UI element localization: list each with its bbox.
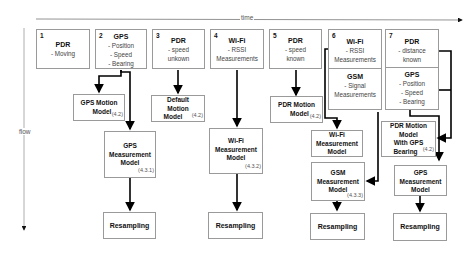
model-label: GPS (105, 142, 155, 151)
step-detail: - distance (386, 46, 438, 55)
step-detail: - Position (96, 41, 146, 50)
step-detail: Measurements (329, 55, 381, 64)
section-ref: (4.2) (310, 112, 321, 121)
wifi-measurement-model-box-6: Wi-Fi Measurement Model (311, 130, 363, 157)
pdr-motion-gps-bearing-model-box: PDR Motion Model With GPS Bearing (4.2) (381, 121, 436, 157)
model-label: GSM (312, 169, 364, 178)
step-detail: - RSSI (329, 46, 381, 55)
flow-axis-label: flow (18, 128, 32, 135)
model-label: Measurement (105, 151, 155, 160)
step-3-box: 3 PDR - speed unkown (152, 29, 205, 69)
section-ref: (4.2) (112, 110, 123, 119)
step-detail: - Speed (96, 50, 146, 59)
step-2-box: 2 GPS - Position - Speed - Bearing (95, 29, 147, 69)
model-label: PDR Motion (382, 122, 435, 131)
step-detail: - Moving (37, 49, 89, 58)
step-detail: known (270, 54, 321, 63)
gsm-measurement-model-box: GSM Measurement Model (4.3.3) (311, 162, 365, 201)
step-6-box: 6 Wi-Fi - RSSI Measurements GSM - Signal… (328, 29, 382, 110)
step-title: PDR (270, 36, 321, 45)
wifi-measurement-model-box: Wi-Fi Measurement Model (4.3.2) (209, 128, 263, 174)
resampling-label: Resampling (394, 222, 446, 231)
step-1-box: 1 PDR - Moving (36, 29, 90, 69)
resampling-box-2: Resampling (103, 212, 156, 239)
step-detail: - Position (386, 79, 438, 88)
default-motion-model-box: Default Motion Model (4.2) (151, 95, 205, 122)
model-label: Wi-Fi (210, 137, 262, 146)
model-label: Model (382, 131, 435, 140)
model-label: Model (395, 186, 446, 195)
step-number: 1 (40, 31, 44, 40)
section-ref: (4.3.1) (138, 166, 154, 175)
section-ref: (4.3.3) (347, 191, 363, 200)
model-label: Default (152, 96, 204, 105)
step-detail: - Bearing (386, 97, 438, 106)
step-title: PDR (37, 40, 89, 49)
step-4-box: 4 Wi-Fi - RSSI Measurements (210, 29, 264, 69)
model-label: GPS (395, 169, 446, 178)
step-title: Wi-Fi (211, 36, 263, 45)
step-detail: - Signal (329, 81, 381, 90)
step-detail: - speed (270, 45, 321, 54)
pdr-motion-model-box: PDR Motion Model (4.2) (270, 96, 323, 123)
step-title: GSM (329, 72, 381, 81)
gps-measurement-model-box: GPS Measurement Model (4.3.1) (104, 131, 156, 178)
step-number: 5 (273, 31, 277, 40)
model-label: GPS Motion (74, 99, 124, 108)
resampling-label: Resampling (311, 222, 364, 231)
step-number: 6 (332, 31, 336, 40)
resampling-box-4: Resampling (208, 212, 263, 239)
step-5-box: 5 PDR - speed known (269, 29, 322, 69)
model-label: Wi-Fi (312, 131, 362, 140)
section-ref: (4.2) (423, 145, 434, 154)
time-axis-label: time (240, 14, 254, 21)
model-label: Measurement (312, 178, 364, 187)
step-7-box: 7 PDR - distance known GPS - Position - … (385, 29, 439, 110)
step-detail: - Bearing (96, 59, 146, 68)
gps-motion-model-box: GPS Motion Model (4.2) (73, 94, 125, 121)
step-detail: unkown (153, 54, 204, 63)
resampling-box-6: Resampling (310, 213, 365, 240)
step-number: 2 (99, 31, 103, 40)
model-label: Measurement (395, 178, 446, 187)
step-number: 3 (156, 31, 160, 40)
resampling-label: Resampling (209, 221, 262, 230)
step-title: PDR (153, 36, 204, 45)
resampling-box-7: Resampling (393, 213, 447, 241)
resampling-label: Resampling (104, 221, 155, 230)
step-title: Wi-Fi (329, 37, 381, 46)
step-title: GPS (386, 70, 438, 79)
step-number: 7 (389, 31, 393, 40)
model-label: Measurement (312, 140, 362, 149)
section-ref: (4.2) (192, 111, 203, 120)
step-title: GPS (96, 32, 146, 41)
step-detail: Measurements (211, 54, 263, 63)
step-detail: - RSSI (211, 45, 263, 54)
step-detail: - Speed (386, 88, 438, 97)
model-label: Measurement (210, 146, 262, 155)
gps-measurement-model-box-7: GPS Measurement Model (394, 165, 447, 196)
step-detail: Measurements (329, 90, 381, 99)
model-label: Model (312, 148, 362, 157)
model-label: PDR Motion (271, 101, 322, 110)
step-detail: known (386, 55, 438, 64)
step-number: 4 (214, 31, 218, 40)
step-detail: - speed (153, 45, 204, 54)
step-title: PDR (386, 37, 438, 46)
section-ref: (4.3.2) (245, 162, 261, 171)
